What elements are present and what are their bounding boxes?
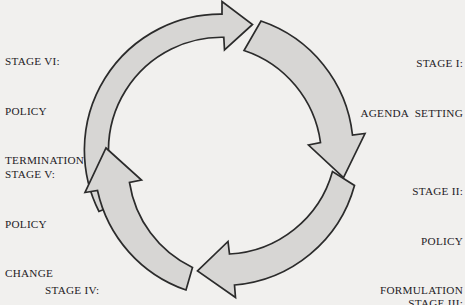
stage-label-5-line-3: CHANGE [5,265,55,282]
stage-label-1-line-1: STAGE I: [360,55,463,72]
stage-label-6-line-1: STAGE VI: [5,53,84,70]
stage-label-6-line-3: TERMINATION [5,152,84,169]
stage-label-3-line-1: STAGE III: [317,295,463,305]
stage-label-1-line-2: AGENDA SETTING [360,105,463,122]
stage-label-4-line-1: STAGE IV: [45,282,118,299]
stage-label-1: STAGE I: AGENDA SETTING [360,22,463,154]
stage-label-2-line-2: POLICY [380,233,463,250]
stage-label-3: STAGE III: POLICY IMPLEMENTATION [317,262,463,305]
stage-label-4: STAGE IV: POLICY EVALUATION [45,249,118,305]
stage-label-5-line-2: POLICY [5,216,55,233]
stage-label-6-line-2: POLICY [5,103,84,120]
stage-label-6: STAGE VI: POLICY TERMINATION [5,20,84,202]
diagram-canvas: STAGE I: AGENDA SETTING STAGE II: POLICY… [0,0,465,305]
arrow-to-policy-formulation [244,21,365,178]
stage-label-2-line-1: STAGE II: [380,183,463,200]
